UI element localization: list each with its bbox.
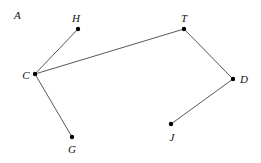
edge-d-j bbox=[171, 79, 233, 124]
vertex-c-point bbox=[33, 72, 37, 76]
vertex-g-label: G bbox=[68, 143, 76, 155]
edge-t-d bbox=[184, 29, 233, 79]
vertex-labels-group: HTCDGJ bbox=[22, 12, 248, 155]
edge-c-g bbox=[35, 74, 72, 137]
vertex-t-label: T bbox=[181, 12, 188, 24]
vertex-h-label: H bbox=[71, 12, 81, 24]
edge-c-t bbox=[35, 29, 184, 74]
graph-diagram: A HTCDGJ bbox=[0, 0, 261, 163]
vertex-j-point bbox=[169, 122, 173, 126]
vertex-h-point bbox=[76, 27, 80, 31]
vertex-d-label: D bbox=[239, 73, 248, 85]
vertex-d-point bbox=[231, 77, 235, 81]
vertex-c-label: C bbox=[22, 69, 30, 81]
region-label-a: A bbox=[13, 9, 21, 21]
vertex-j-label: J bbox=[170, 131, 176, 143]
vertex-t-point bbox=[182, 27, 186, 31]
edges-group bbox=[35, 29, 233, 137]
vertex-g-point bbox=[70, 135, 74, 139]
